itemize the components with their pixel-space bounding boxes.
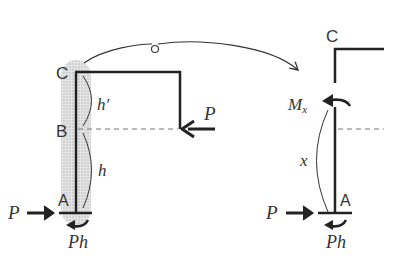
left-reaction-arrow: [27, 206, 54, 220]
label-P-reaction-right: P: [265, 202, 278, 223]
label-x: x: [299, 151, 308, 170]
right-frame: C A Mx x P Ph: [265, 27, 384, 252]
label-P-load: P: [203, 103, 216, 124]
label-Ph-right: Ph: [325, 232, 346, 252]
label-B-left: B: [56, 122, 67, 141]
structural-diagram: C B A h′ h P P Ph: [0, 0, 396, 265]
label-Mx: Mx: [287, 95, 307, 115]
label-Ph-left: Ph: [67, 232, 88, 252]
label-C-right: C: [326, 27, 338, 46]
right-moment-arrow: [324, 220, 346, 230]
label-P-reaction-left: P: [7, 202, 20, 223]
mx-moment-arrow: [322, 94, 350, 107]
right-reaction-arrow: [286, 206, 313, 220]
label-A-left: A: [58, 192, 69, 209]
left-frame: C B A h′ h P P Ph: [7, 64, 216, 252]
label-h: h: [98, 161, 107, 180]
x-dimension: [317, 110, 329, 212]
label-A-right: A: [340, 192, 351, 209]
transfer-arrow: [84, 42, 298, 70]
label-C-left: C: [56, 64, 68, 83]
label-h-prime: h′: [97, 95, 110, 114]
